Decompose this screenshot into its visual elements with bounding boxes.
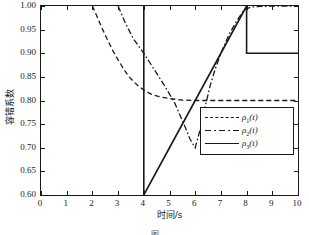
chart-figure: 012345678910 0.600.650.700.750.800.850.9…	[0, 0, 309, 235]
x-tick-top	[272, 6, 273, 10]
x-axis-title: 时间/s	[40, 208, 299, 221]
x-tick	[247, 191, 248, 195]
x-tick-label: 5	[166, 198, 171, 208]
legend-swatch-dashed-icon	[205, 114, 239, 122]
x-tick	[272, 191, 273, 195]
legend-label-rho3: ρ3(t)	[242, 138, 258, 150]
x-tick-top	[195, 6, 196, 10]
y-tick	[41, 30, 45, 31]
y-tick-right	[294, 6, 298, 7]
x-tick	[67, 191, 68, 195]
y-tick	[41, 148, 45, 149]
legend-item-rho2: ρ2(t)	[205, 124, 289, 137]
x-tick-label: 6	[192, 198, 197, 208]
y-tick-right	[294, 148, 298, 149]
y-axis-title: 容错系数	[3, 72, 16, 142]
x-tick-label: 1	[63, 198, 68, 208]
curves-svg	[41, 6, 298, 195]
y-tick-right	[294, 30, 298, 31]
x-tick-label: 0	[38, 198, 43, 208]
y-tick-right	[294, 77, 298, 78]
y-tick-right	[294, 124, 298, 125]
x-tick-top	[170, 6, 171, 10]
y-tick	[41, 6, 45, 7]
x-tick-label: 10	[293, 198, 302, 208]
x-tick	[144, 191, 145, 195]
legend-swatch-dashdot-icon	[205, 127, 239, 135]
y-tick-right	[294, 195, 298, 196]
x-tick-label: 8	[243, 198, 248, 208]
y-tick-right	[294, 171, 298, 172]
chart-legend: ρ1(t) ρ2(t) ρ3(t)	[200, 107, 294, 155]
legend-item-rho3: ρ3(t)	[205, 137, 289, 150]
legend-label-rho1: ρ1(t)	[242, 112, 258, 124]
x-tick-top	[92, 6, 93, 10]
y-tick-right	[294, 101, 298, 102]
legend-label-rho2: ρ2(t)	[242, 125, 258, 137]
y-tick	[41, 77, 45, 78]
x-tick-top	[298, 6, 299, 10]
y-tick	[41, 101, 45, 102]
plot-area	[40, 5, 299, 196]
x-tick-label: 7	[218, 198, 223, 208]
x-tick-label: 2	[89, 198, 94, 208]
x-tick	[195, 191, 196, 195]
x-tick	[170, 191, 171, 195]
x-tick	[92, 191, 93, 195]
y-tick	[41, 195, 45, 196]
legend-item-rho1: ρ1(t)	[205, 111, 289, 124]
legend-swatch-solid-icon	[205, 140, 239, 148]
x-tick	[221, 191, 222, 195]
x-tick-top	[118, 6, 119, 10]
x-tick-top	[221, 6, 222, 10]
x-tick-label: 4	[141, 198, 146, 208]
x-tick-top	[247, 6, 248, 10]
x-tick-top	[67, 6, 68, 10]
y-tick	[41, 124, 45, 125]
x-tick-label: 9	[269, 198, 274, 208]
x-tick-label: 3	[115, 198, 120, 208]
y-tick	[41, 171, 45, 172]
x-tick-top	[144, 6, 145, 10]
x-tick	[298, 191, 299, 195]
figure-caption: 图	[0, 228, 309, 235]
x-tick	[118, 191, 119, 195]
y-tick-right	[294, 53, 298, 54]
y-tick	[41, 53, 45, 54]
